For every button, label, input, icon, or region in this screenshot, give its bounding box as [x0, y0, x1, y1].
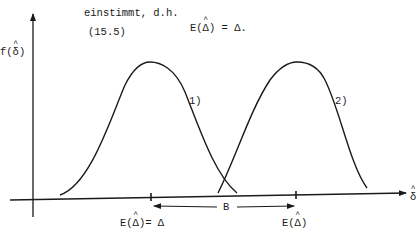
distribution-diagram	[0, 0, 420, 233]
equation-prefix: E(	[190, 22, 203, 34]
bias-label: B	[223, 202, 229, 213]
true-value-label: E(Δ)= Δ	[120, 218, 164, 229]
equation-hat-symbol: Δ	[203, 23, 209, 34]
bias-arrow-left	[154, 206, 217, 207]
x-axis-label: δ	[410, 192, 416, 203]
curve-2	[218, 62, 367, 193]
curve-1-label: 1)	[189, 96, 202, 107]
bias-arrow-right	[237, 206, 294, 207]
y-axis-label: f(δ)	[0, 47, 25, 58]
biased-expectation-label: E(Δ)	[282, 218, 307, 229]
equation: E(Δ) = Δ.	[190, 23, 247, 34]
intro-text: einstimmt, d.h.	[84, 8, 179, 19]
curve-1	[60, 62, 237, 195]
x-axis	[10, 193, 406, 200]
equation-number: (15.5)	[88, 27, 126, 38]
curve-2-label: 2)	[335, 96, 348, 107]
equation-suffix: ) = Δ.	[209, 22, 247, 34]
